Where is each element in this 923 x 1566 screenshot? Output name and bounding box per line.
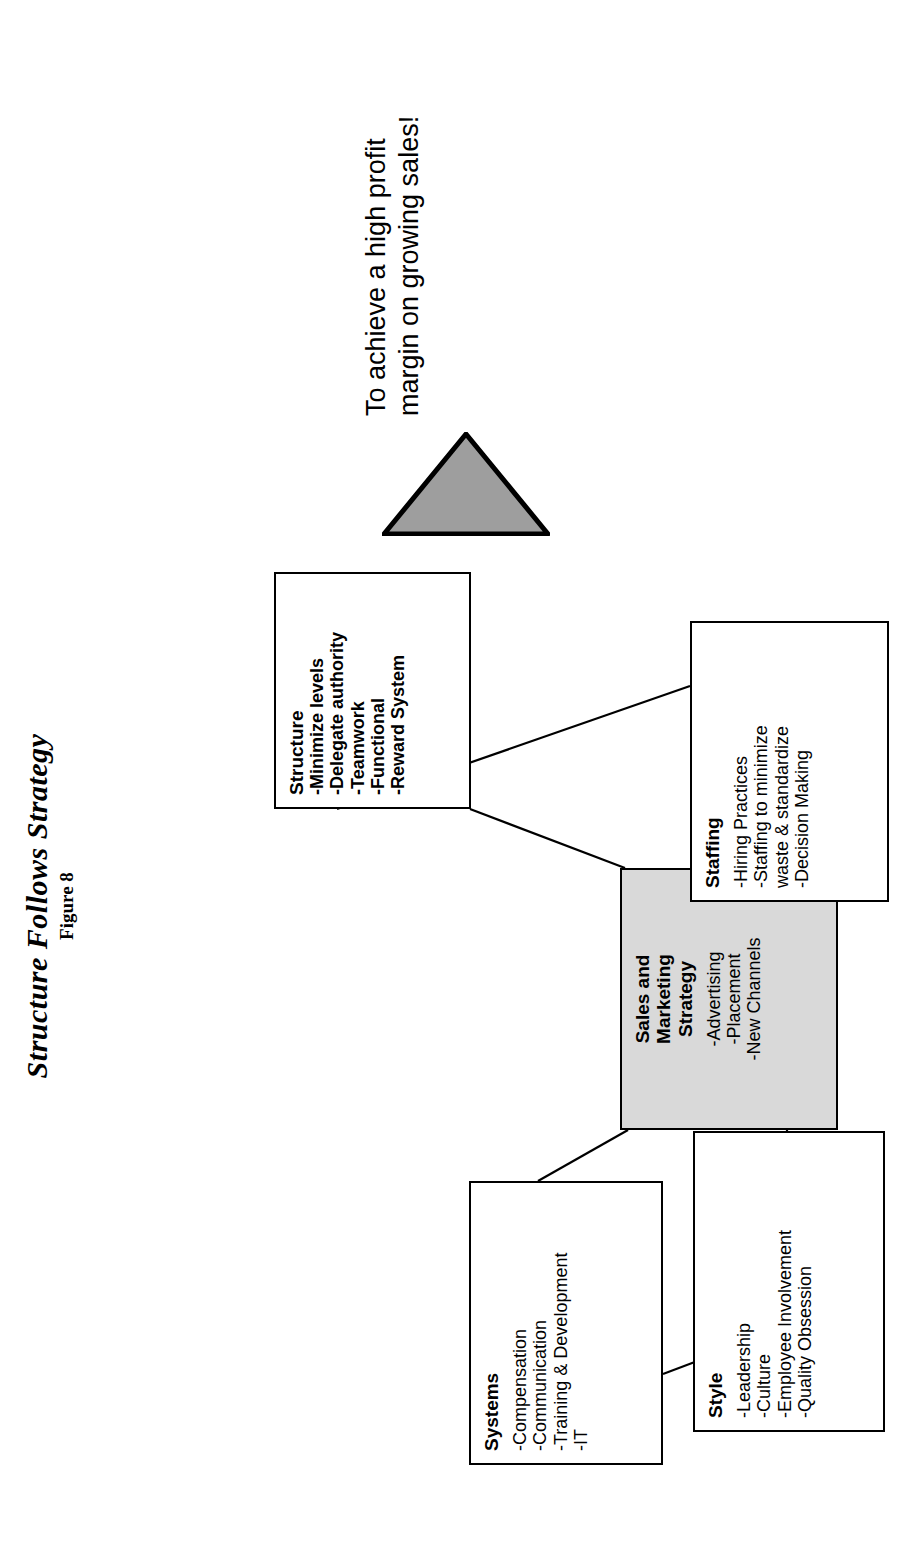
node-item-list: -Minimize levels -Delegate authority -Te… — [307, 586, 408, 795]
node-sales-and-marketing-strategy[interactable]: Sales and Marketing Strategy -Advertisin… — [620, 868, 838, 1130]
node-item-list: -Compensation -Communication -Training &… — [510, 1195, 591, 1451]
figure-page: Structure Follows Strategy Figure 8 Sale… — [0, 0, 923, 1566]
list-item: -Advertising — [704, 882, 724, 1116]
spacer — [726, 1145, 734, 1418]
list-item: -Training & Development — [551, 1195, 571, 1451]
list-item: -Delegate authority — [327, 586, 347, 795]
list-item: -Quality Obsession — [795, 1145, 815, 1418]
node-title: Sales and Marketing Strategy — [632, 882, 696, 1116]
node-staffing[interactable]: Staffing -Hiring Practices -Staffing to … — [690, 621, 889, 902]
node-title: Structure — [286, 586, 307, 795]
list-item: -Leadership — [734, 1145, 754, 1418]
node-item-list: -Leadership -Culture -Employee Involveme… — [734, 1145, 815, 1418]
list-item: -Reward System — [388, 586, 408, 795]
node-systems[interactable]: Systems -Compensation -Communication -Tr… — [469, 1181, 663, 1465]
list-item: -Decision Making — [792, 635, 812, 888]
list-item: -Communication — [530, 1195, 550, 1451]
edge-sales-structure — [470, 809, 625, 868]
figure-number: Figure 8 — [56, 646, 78, 1166]
node-structure[interactable]: Structure -Minimize levels -Delegate aut… — [274, 572, 471, 809]
node-title: Style — [705, 1145, 726, 1418]
page-title: Structure Follows Strategy — [20, 646, 54, 1166]
title-block: Structure Follows Strategy Figure 8 — [20, 646, 78, 1166]
node-title: Staffing — [702, 635, 723, 888]
list-item: -IT — [571, 1195, 591, 1451]
spacer — [696, 882, 704, 1116]
list-item: -Compensation — [510, 1195, 530, 1451]
list-item: -Placement — [724, 882, 744, 1116]
spacer — [502, 1195, 510, 1451]
list-item: -Culture — [754, 1145, 774, 1418]
list-item: -New Channels — [744, 882, 764, 1116]
node-item-list: -Advertising -Placement -New Channels — [704, 882, 764, 1116]
node-title: Systems — [481, 1195, 502, 1451]
edge-sales-systems — [538, 1130, 628, 1181]
spacer — [723, 635, 731, 888]
node-style[interactable]: Style -Leadership -Culture -Employee Inv… — [693, 1131, 885, 1432]
list-item: -Staffing to minimize waste & standardiz… — [751, 635, 791, 888]
list-item: -Hiring Practices — [731, 635, 751, 888]
list-item: -Employee Involvement — [775, 1145, 795, 1418]
triangle-arrow-right-icon — [382, 432, 550, 536]
goal-statement: To achieve a high profit margin on growi… — [360, 16, 426, 416]
list-item: -Functional — [368, 586, 388, 795]
list-item: -Minimize levels — [307, 586, 327, 795]
list-item: -Teamwork — [348, 586, 368, 795]
diagram-canvas: Structure Follows Strategy Figure 8 Sale… — [0, 0, 923, 1566]
node-item-list: -Hiring Practices -Staffing to minimize … — [731, 635, 812, 888]
